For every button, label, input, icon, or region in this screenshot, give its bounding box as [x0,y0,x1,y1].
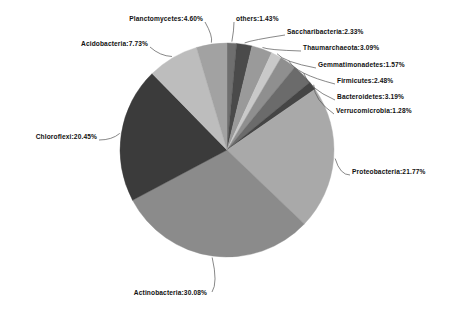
slice-label-actinobacteria: Actinobacteria:30.08% [134,290,207,297]
leader-line-acidobacteria [150,47,172,56]
slice-label-saccharibacteria: Saccharibacteria:2.33% [287,29,364,36]
slice-label-verrucomicrobia: Verrucomicrobia:1.28% [336,108,412,115]
slice-label-acidobacteria: Acidobacteria:7.73% [81,41,148,48]
pie-slices-group [120,43,334,257]
pie-chart-figure: Planctomycetes:4.60% Acidobacteria:7.73%… [0,0,462,312]
slice-label-others: others:1.43% [236,16,279,23]
slice-label-planctomycetes: Planctomycetes:4.60% [129,16,203,23]
pie-chart-canvas [0,0,462,312]
slice-label-proteobacteria: Proteobacteria:21.77% [352,169,426,176]
leader-line-actinobacteria [212,257,215,292]
leader-line-thaumarchaeota [263,47,302,51]
leader-line-proteobacteria [335,159,350,175]
slice-label-firmicutes: Firmicutes:2.48% [337,78,393,85]
leader-line-planctomycetes [205,22,212,43]
leader-line-chloroflexi [99,133,120,140]
slice-label-bacteroidetes: Bacteroidetes:3.19% [337,94,404,101]
leader-line-others [232,22,234,42]
slice-label-thaumarchaeota: Thaumarchaeota:3.09% [303,45,379,52]
slice-label-chloroflexi: Chloroflexi:20.45% [36,134,97,141]
slice-label-gemmatimonadetes: Gemmatimonadetes:1.57% [318,62,405,69]
leader-line-saccharibacteria [245,35,285,43]
